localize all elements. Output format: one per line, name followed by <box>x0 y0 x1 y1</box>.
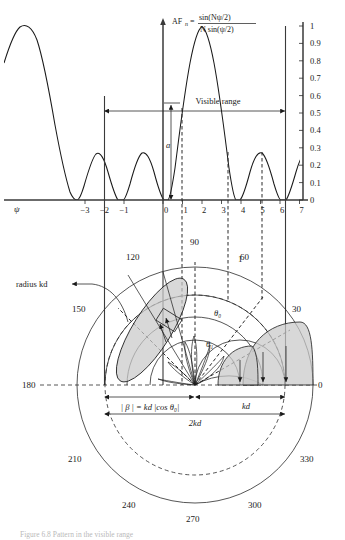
degree-label-0: 0 <box>318 380 323 390</box>
formula-subscript: n <box>185 21 188 27</box>
kd-label: kd <box>242 401 251 411</box>
degree-label-240: 240 <box>122 500 136 510</box>
x-tick-label: 3 <box>221 205 225 215</box>
two-kd-label: 2kd <box>189 418 202 428</box>
visible-range-label: Visible range <box>195 96 240 106</box>
beta-label: | β | = kd |cos θ₀| <box>121 402 180 412</box>
y-tick-label: 0.8 <box>310 56 321 66</box>
formula-denominator: N sin(ψ/2) <box>200 25 234 34</box>
degree-label-180: 180 <box>22 380 36 390</box>
figure-caption: Figure 6.8 Pattern in the visible range <box>20 530 134 539</box>
array-factor-curve <box>4 26 320 200</box>
y-tick-label: 0.9 <box>310 38 321 48</box>
formula-block: AF n = sin(Nψ/2) N sin(ψ/2) <box>172 13 256 34</box>
degree-label-210: 210 <box>68 454 82 464</box>
y-tick-label: 0.4 <box>310 125 321 135</box>
theta0-label: θ₀ <box>214 308 221 318</box>
degree-label-90: 90 <box>190 237 200 247</box>
degree-label-330: 330 <box>300 454 314 464</box>
x-tick-label: 6 <box>280 205 284 215</box>
y-tick-label: 0.7 <box>310 73 321 83</box>
x-tick-label: 7 <box>299 205 303 215</box>
x-axis-label: ψ <box>14 204 20 214</box>
x-tick-label: 1 <box>183 205 187 215</box>
y-tick-label: 0.2 <box>310 160 321 170</box>
x-tick-label: −1 <box>119 205 128 215</box>
polar-plot: 0 30 60 90 120 150 180 210 240 270 300 3… <box>16 237 323 524</box>
y-tick-label: 0.1 <box>310 178 321 188</box>
degree-label-300: 300 <box>248 500 262 510</box>
formula-lhs: AF <box>172 17 183 26</box>
degree-label-120: 120 <box>126 252 140 262</box>
antenna-array-factor-figure: 0 0.1 0.2 0.3 0.4 0.5 0.6 0.7 0.8 0.9 1 <box>0 0 345 540</box>
degree-label-150: 150 <box>72 304 86 314</box>
x-axis-tick-labels: −3 −2 −1 0 1 2 3 4 5 6 7 <box>80 205 303 215</box>
axis-arrowhead <box>160 18 166 25</box>
x-tick-label: −3 <box>80 205 89 215</box>
x-tick-label: 2 <box>202 205 206 215</box>
x-tick-label: 0 <box>164 205 168 215</box>
unit-marker-label: 1 <box>238 254 243 264</box>
y-tick-label: 0.3 <box>310 143 321 153</box>
y-tick-label: 0.5 <box>310 108 321 118</box>
formula-numerator: sin(Nψ/2) <box>199 13 231 22</box>
formula-equals: = <box>190 17 195 26</box>
y-tick-label: 1 <box>310 21 314 31</box>
grating-lobe <box>218 322 313 385</box>
degree-label-270: 270 <box>186 514 200 524</box>
degree-label-30: 30 <box>292 304 302 314</box>
y-tick-label: 0.6 <box>310 91 321 101</box>
radius-kd-label: radius kd <box>16 279 48 289</box>
x-tick-label: 4 <box>241 205 246 215</box>
amplitude-label: a <box>166 140 170 150</box>
y-axis-tick-labels: 0 0.1 0.2 0.3 0.4 0.5 0.6 0.7 0.8 0.9 1 <box>310 21 321 205</box>
y-tick-label: 0 <box>310 195 314 205</box>
